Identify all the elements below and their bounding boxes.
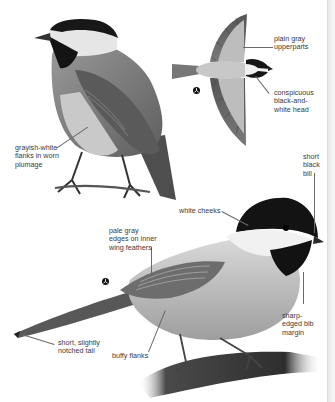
label-cheeks: white cheeks [179,207,221,215]
page-edge [327,0,335,402]
label-bill: short black bill [303,153,320,178]
sex-symbol-icon [193,87,200,94]
label-tail: short, slightly notched tail [58,339,100,356]
perched-side-bird [14,198,324,398]
leader-bill [314,173,315,233]
leader-upperparts [243,47,273,48]
perched-rear-bird [34,19,176,200]
sex-symbol-icon [102,278,109,285]
label-upperparts: plain gray upperparts [274,35,308,52]
label-wing-edges: pale gray edges on inner wing feathers [109,227,157,252]
leader-bib [303,272,304,304]
label-flanks-worn: grayish-white flanks in worn plumage [15,144,59,169]
label-buffy-flanks: buffy flanks [112,352,148,360]
label-bib: sharp- edged bib margin [282,312,314,337]
label-head: conspicuous black-and- white head [274,89,314,114]
